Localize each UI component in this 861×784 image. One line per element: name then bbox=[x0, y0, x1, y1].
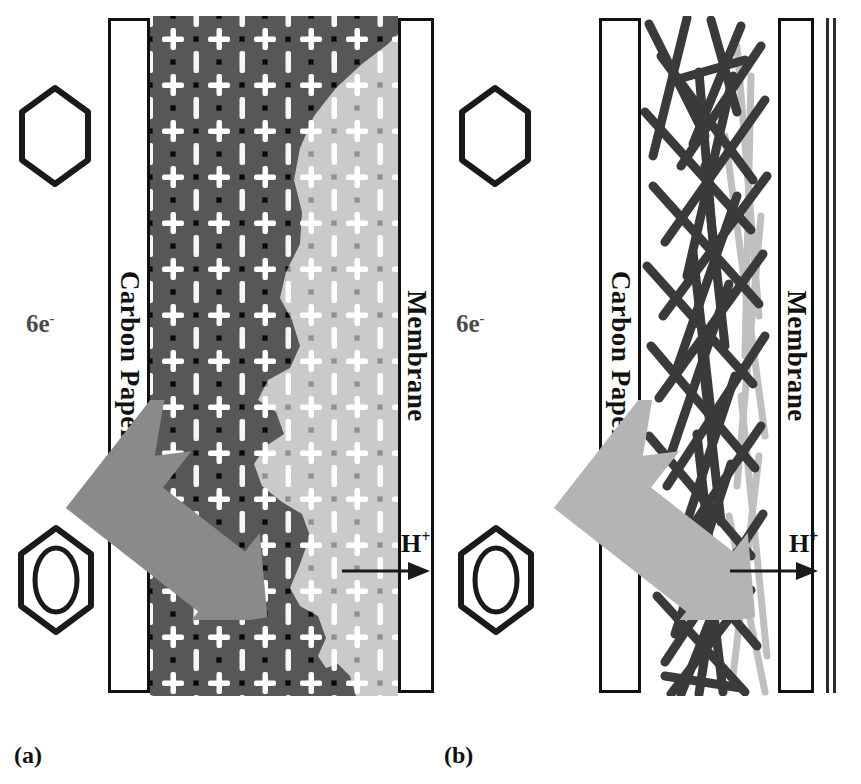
membrane-slab-a: Membrane bbox=[398, 18, 434, 693]
proton-label-b: H+ bbox=[789, 528, 818, 559]
panel-b-caption: (b) bbox=[444, 742, 473, 769]
outer-boundary-line-b bbox=[826, 18, 829, 693]
electron-label-b: 6e- bbox=[456, 310, 485, 338]
proton-label-a: H+ bbox=[401, 528, 430, 559]
figure-root: 6e- bbox=[0, 0, 861, 784]
reactant-flow-arrow-b bbox=[548, 400, 818, 624]
panel-a: 6e- bbox=[0, 0, 430, 784]
cyclohexane-hexagon-icon-b bbox=[456, 84, 534, 188]
proton-arrow-b bbox=[730, 558, 820, 588]
electron-label-a: 6e- bbox=[26, 310, 55, 338]
cyclohexane-hexagon-icon-a bbox=[16, 84, 94, 188]
reactant-flow-arrow-a bbox=[60, 400, 330, 624]
panel-b: 6e- bbox=[430, 0, 860, 784]
outer-boundary-line-b2 bbox=[833, 18, 836, 693]
panel-a-caption: (a) bbox=[14, 742, 42, 769]
membrane-label-a: Membrane bbox=[401, 290, 432, 421]
proton-arrow-a bbox=[342, 558, 432, 588]
benzene-hexagon-icon-b bbox=[454, 524, 538, 636]
